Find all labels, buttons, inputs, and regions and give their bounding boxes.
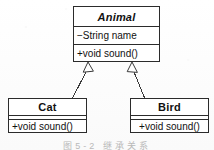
uml-class-diagram-canvas: Animal −String name +void sound() Cat +v… [0,0,214,150]
generalization-cat-to-animal [72,62,93,99]
class-name-cat: Cat [9,99,86,115]
generalization-bird-to-animal [127,62,145,99]
uml-class-cat[interactable]: Cat +void sound() [8,98,87,133]
class-attribute-animal-name: −String name [74,26,159,44]
class-operation-animal-sound: +void sound() [74,44,159,62]
hollow-triangle-arrowhead [127,62,137,72]
class-name-bird: Bird [131,99,208,115]
hollow-triangle-arrowhead [83,62,93,72]
figure-caption: 图5-2 继承关系 [0,139,214,150]
uml-class-bird[interactable]: Bird +void sound() [130,98,209,133]
class-operation-cat-sound: +void sound() [9,119,86,133]
uml-class-animal[interactable]: Animal −String name +void sound() [73,6,160,62]
class-name-animal: Animal [74,7,159,26]
class-operation-bird-sound: +void sound() [131,119,208,133]
